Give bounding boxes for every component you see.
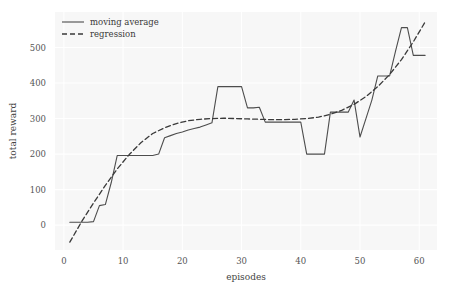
legend-label: moving average	[90, 17, 159, 27]
y-tick-label: 400	[30, 78, 46, 88]
y-tick-label: 0	[41, 220, 46, 230]
y-tick-label: 100	[30, 185, 46, 195]
x-tick-label: 40	[295, 256, 306, 266]
x-axis-title: episodes	[226, 272, 266, 282]
y-axis-title: total reward	[8, 103, 18, 160]
x-tick-label: 50	[355, 256, 366, 266]
y-tick-label: 500	[30, 43, 46, 53]
x-tick-label: 30	[236, 256, 247, 266]
x-tick-label: 20	[177, 256, 188, 266]
legend-label: regression	[90, 29, 136, 39]
chart-figure: 0102030405060 0100200300400500 episodes …	[0, 0, 455, 292]
x-tick-label: 60	[414, 256, 425, 266]
y-tick-label: 200	[30, 149, 46, 159]
x-tick-label: 10	[118, 256, 129, 266]
y-tick-label: 300	[30, 114, 46, 124]
x-tick-label: 0	[61, 256, 66, 266]
reward-line-chart: 0102030405060 0100200300400500 episodes …	[0, 0, 455, 292]
